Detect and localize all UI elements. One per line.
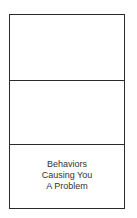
label-line-3: A Problem — [10, 181, 124, 192]
bottom-cell-label: Behaviors Causing You A Problem — [10, 159, 124, 192]
label-line-2: Causing You — [10, 170, 124, 181]
middle-cell — [10, 80, 124, 144]
label-line-1: Behaviors — [10, 159, 124, 170]
bottom-cell: Behaviors Causing You A Problem — [10, 144, 124, 209]
top-cell — [10, 15, 124, 79]
three-cell-box: Behaviors Causing You A Problem — [9, 14, 125, 209]
